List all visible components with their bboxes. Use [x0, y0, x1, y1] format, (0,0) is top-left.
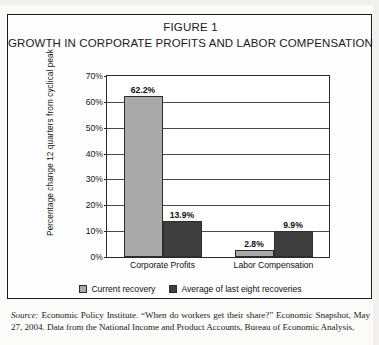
category-label: Corporate Profits	[130, 260, 195, 270]
legend-item: Current recovery	[79, 284, 155, 294]
y-tick-label: 60%	[86, 97, 103, 107]
bar-average-recoveries: 13.9%	[163, 221, 202, 257]
bar-current-recovery: 2.8%	[235, 250, 274, 257]
y-tick-mark	[104, 154, 107, 155]
y-tick-label: 40%	[86, 149, 103, 159]
bar-value-label: 13.9%	[170, 210, 194, 220]
figure-number-title: FIGURE 1	[8, 21, 373, 33]
bar-value-label: 2.8%	[244, 239, 264, 249]
source-note: Source: Economic Policy Institute. “When…	[11, 309, 370, 334]
figure-main-title: GROWTH IN CORPORATE PROFITS AND LABOR CO…	[8, 37, 373, 49]
y-tick-mark	[104, 179, 107, 180]
y-tick-mark	[104, 128, 107, 129]
figure-box: FIGURE 1 GROWTH IN CORPORATE PROFITS AND…	[7, 14, 372, 299]
scan-edge-top	[0, 0, 379, 5]
y-tick-label: 20%	[86, 200, 103, 210]
bar-current-recovery: 62.2%	[124, 96, 163, 257]
legend-swatch-icon	[79, 285, 87, 293]
bar-average-recoveries: 9.9%	[274, 231, 313, 257]
category-label: Labor Compensation	[234, 260, 314, 270]
y-tick-label: 70%	[86, 71, 103, 81]
legend-label: Average of last eight recoveries	[181, 284, 301, 294]
y-tick-mark	[104, 205, 107, 206]
bar-value-label: 9.9%	[283, 220, 303, 230]
y-tick-label: 50%	[86, 123, 103, 133]
legend-label: Current recovery	[91, 284, 155, 294]
legend-swatch-icon	[169, 285, 177, 293]
y-tick-mark	[104, 231, 107, 232]
y-tick-label: 0%	[91, 252, 103, 262]
y-axis-title: Percentage change 12 quarters from cycli…	[46, 48, 55, 238]
y-tick-label: 10%	[86, 226, 103, 236]
chart-legend: Current recoveryAverage of last eight re…	[8, 284, 373, 294]
source-text: Economic Policy Institute. “When do work…	[11, 310, 370, 332]
figure-page: FIGURE 1 GROWTH IN CORPORATE PROFITS AND…	[0, 0, 379, 345]
y-tick-mark	[104, 102, 107, 103]
bar-value-label: 62.2%	[131, 85, 155, 95]
source-label: Source:	[11, 310, 39, 320]
y-tick-label: 30%	[86, 174, 103, 184]
y-tick-mark	[104, 257, 107, 258]
legend-item: Average of last eight recoveries	[169, 284, 301, 294]
scan-edge-right	[373, 0, 379, 345]
y-tick-mark	[104, 76, 107, 77]
plot-area: 70%60%50%40%30%20%10%0% 62.2%13.9%2.8%9.…	[106, 75, 330, 258]
